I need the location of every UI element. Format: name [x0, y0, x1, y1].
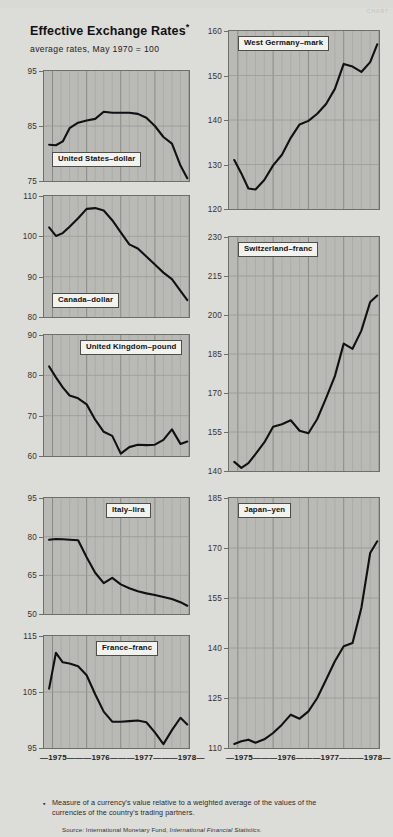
y-tick-mark: [224, 698, 228, 699]
y-tick-mark: [224, 648, 228, 649]
y-tick-label: 185: [196, 494, 222, 503]
source-publication: International Financial Statistics.: [170, 826, 262, 833]
y-tick-mark: [224, 748, 228, 749]
panel-label-japan-yen: Japan–yen: [238, 503, 291, 518]
plot-area: [228, 497, 380, 749]
y-tick-label: 155: [196, 594, 222, 603]
footnote-bullet: ▪: [43, 799, 46, 809]
y-tick-mark: [224, 548, 228, 549]
footnote-text: Measure of a currency's value relative t…: [52, 798, 316, 817]
y-tick-label: 125: [196, 694, 222, 703]
x-axis-left: —1975———1976———1977———1978—: [40, 753, 195, 762]
footnote: ▪Measure of a currency's value relative …: [52, 798, 352, 819]
y-tick-label: 140: [196, 644, 222, 653]
y-tick-mark: [224, 498, 228, 499]
plot-svg: [229, 498, 379, 748]
chart-figure: CHART Effective Exchange Rates* average …: [0, 8, 393, 837]
x-axis-right: —1975———1976———1977———1978—: [226, 753, 384, 762]
source-prefix: Source: International Monetary Fund,: [62, 826, 170, 833]
source-line: Source: International Monetary Fund, Int…: [62, 826, 382, 833]
chart-panel-japan-yen: 110125140155170185Japan–yen: [0, 8, 393, 837]
y-tick-mark: [224, 598, 228, 599]
y-tick-label: 170: [196, 544, 222, 553]
y-tick-label: 110: [196, 744, 222, 753]
